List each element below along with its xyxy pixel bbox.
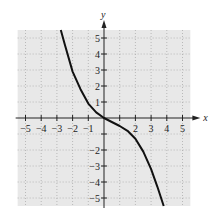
x-axis-label: x (202, 112, 208, 123)
y-axis-arrow-icon (102, 20, 107, 28)
x-tick-label: −5 (20, 123, 31, 134)
x-tick-label: 2 (133, 123, 138, 134)
y-tick-label: 1 (95, 97, 100, 108)
y-tick-label: −5 (89, 193, 100, 204)
y-tick-label: 4 (95, 49, 100, 60)
y-tick-label: 5 (95, 33, 100, 44)
x-tick-label: −4 (36, 123, 47, 134)
x-axis-arrow-icon (192, 116, 200, 121)
y-axis-label: y (100, 9, 106, 20)
x-tick-label: −1 (83, 123, 94, 134)
y-tick-label: −2 (89, 145, 100, 156)
y-tick-label: −4 (89, 177, 100, 188)
y-tick-label: 2 (95, 81, 100, 92)
chart: xy−5−4−3−2−12345−5−4−3−212345 (0, 0, 212, 216)
x-tick-label: 4 (164, 123, 169, 134)
y-tick-label: 3 (95, 65, 100, 76)
x-tick-label: −2 (67, 123, 78, 134)
x-tick-label: 3 (149, 123, 154, 134)
x-tick-label: 5 (180, 123, 185, 134)
x-tick-label: −3 (52, 123, 63, 134)
y-tick-label: −3 (89, 161, 100, 172)
